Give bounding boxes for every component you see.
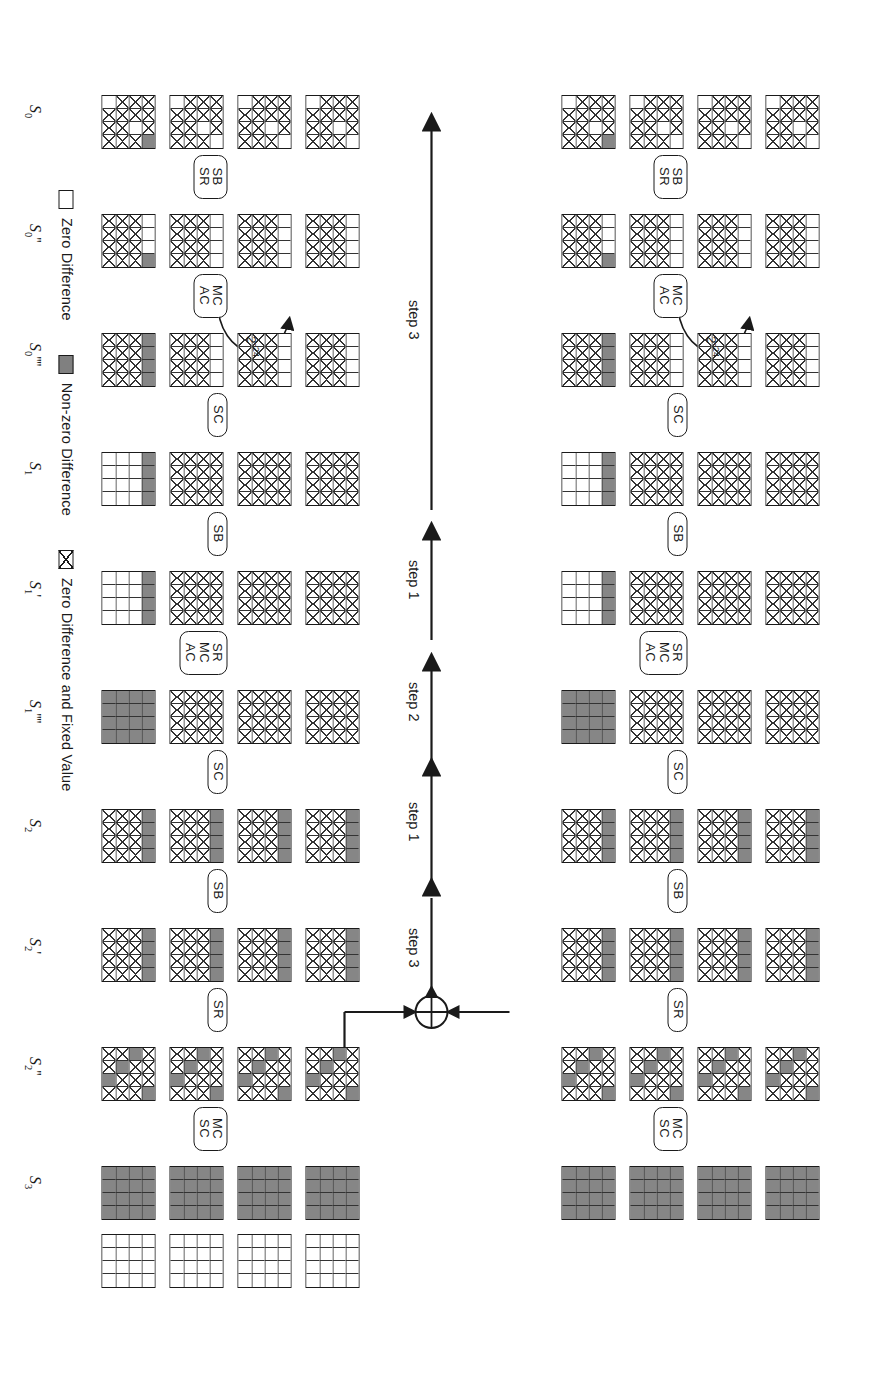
state-cell bbox=[562, 453, 575, 466]
state-cell bbox=[575, 955, 588, 968]
state-cell bbox=[141, 360, 154, 373]
state-cell bbox=[562, 96, 575, 109]
state-cell bbox=[630, 453, 643, 466]
state-label-row-S0pppp: S0'''' bbox=[23, 343, 43, 366]
state-cell bbox=[711, 109, 724, 122]
state-cell bbox=[698, 1048, 711, 1061]
state-cell bbox=[170, 1167, 183, 1180]
state-cell bbox=[588, 334, 601, 347]
state-cell bbox=[277, 1087, 290, 1100]
state-cell bbox=[115, 241, 128, 254]
state-cell bbox=[669, 585, 682, 598]
state-cell bbox=[601, 823, 614, 836]
state-cell bbox=[711, 691, 724, 704]
state-cell bbox=[264, 1074, 277, 1087]
state-grid bbox=[237, 95, 291, 149]
state-cell bbox=[332, 453, 345, 466]
state-cell bbox=[170, 466, 183, 479]
state-cell bbox=[115, 849, 128, 862]
state-cell bbox=[630, 942, 643, 955]
state-cell bbox=[698, 585, 711, 598]
state-cell bbox=[128, 360, 141, 373]
state-cell bbox=[792, 373, 805, 386]
state-cell bbox=[575, 849, 588, 862]
state-cell bbox=[345, 122, 358, 135]
state-cell bbox=[562, 466, 575, 479]
state-cell bbox=[332, 1048, 345, 1061]
state-cell bbox=[737, 373, 750, 386]
state-cell bbox=[345, 968, 358, 981]
state-cell bbox=[332, 1074, 345, 1087]
state-cell bbox=[792, 810, 805, 823]
state-cell bbox=[102, 1048, 115, 1061]
state-cell bbox=[238, 730, 251, 743]
state-cell bbox=[196, 1235, 209, 1248]
state-cell bbox=[128, 1248, 141, 1261]
state-cell bbox=[332, 1087, 345, 1100]
state-cell bbox=[332, 598, 345, 611]
state-cell bbox=[319, 836, 332, 849]
state-cell bbox=[711, 1193, 724, 1206]
state-cell bbox=[601, 942, 614, 955]
state-cell bbox=[643, 836, 656, 849]
state-grid bbox=[629, 1166, 683, 1220]
state-cell bbox=[141, 466, 154, 479]
state-cell bbox=[724, 929, 737, 942]
state-cell bbox=[277, 1167, 290, 1180]
state-cell bbox=[792, 849, 805, 862]
state-cell bbox=[724, 611, 737, 624]
operation-box: SB bbox=[207, 512, 227, 556]
state-cell bbox=[711, 849, 724, 862]
state-cell bbox=[562, 347, 575, 360]
state-cell bbox=[170, 1261, 183, 1274]
state-cell bbox=[766, 1061, 779, 1074]
state-cell bbox=[251, 241, 264, 254]
state-cell bbox=[128, 1087, 141, 1100]
state-cell bbox=[102, 1248, 115, 1261]
state-cell bbox=[209, 717, 222, 730]
state-cell bbox=[319, 466, 332, 479]
state-cell bbox=[141, 334, 154, 347]
state-cell bbox=[141, 730, 154, 743]
state-cell bbox=[306, 730, 319, 743]
state-label-primes: '' bbox=[26, 237, 43, 242]
state-cell bbox=[711, 254, 724, 267]
state-cell bbox=[669, 1087, 682, 1100]
state-grid bbox=[169, 928, 223, 982]
state-cell bbox=[805, 1193, 818, 1206]
state-cell bbox=[209, 347, 222, 360]
state-cell bbox=[277, 360, 290, 373]
state-cell bbox=[562, 122, 575, 135]
state-cell bbox=[209, 849, 222, 862]
state-cell bbox=[141, 1048, 154, 1061]
state-grid bbox=[629, 571, 683, 625]
state-cell bbox=[792, 1087, 805, 1100]
state-cell bbox=[805, 215, 818, 228]
state-cell bbox=[779, 1061, 792, 1074]
state-cell bbox=[277, 373, 290, 386]
state-cell bbox=[575, 585, 588, 598]
state-cell bbox=[277, 955, 290, 968]
state-cell bbox=[737, 836, 750, 849]
state-cell bbox=[332, 942, 345, 955]
state-cell bbox=[669, 334, 682, 347]
state-grid bbox=[765, 333, 819, 387]
state-cell bbox=[209, 96, 222, 109]
state-cell bbox=[115, 254, 128, 267]
state-cell bbox=[196, 942, 209, 955]
state-cell bbox=[306, 1167, 319, 1180]
state-cell bbox=[238, 479, 251, 492]
state-cell bbox=[238, 1193, 251, 1206]
state-cell bbox=[251, 1248, 264, 1261]
state-cell bbox=[115, 1074, 128, 1087]
state-cell bbox=[102, 453, 115, 466]
state-cell bbox=[643, 347, 656, 360]
state-cell bbox=[562, 968, 575, 981]
state-cell bbox=[141, 611, 154, 624]
state-cell bbox=[562, 1167, 575, 1180]
state-grid bbox=[305, 690, 359, 744]
state-cell bbox=[792, 241, 805, 254]
state-cell bbox=[805, 929, 818, 942]
operation-box: SC bbox=[207, 750, 227, 794]
state-cell bbox=[319, 810, 332, 823]
